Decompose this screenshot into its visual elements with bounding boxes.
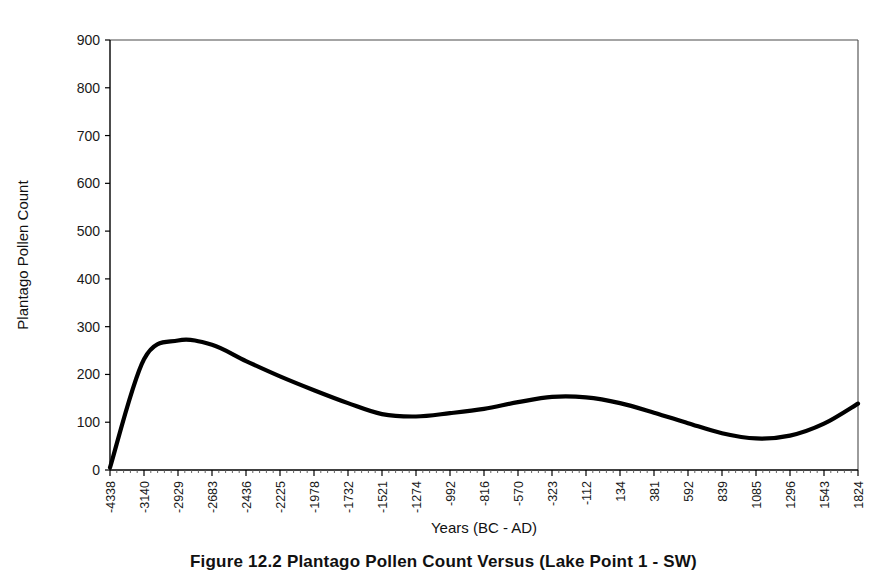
y-tick-label: 400: [77, 271, 101, 287]
data-series-line: [110, 340, 858, 468]
x-tick-label: -1521: [376, 481, 390, 513]
y-tick-label: 200: [77, 366, 101, 382]
y-tick-label: 800: [77, 80, 101, 96]
y-tick-label: 300: [77, 319, 101, 335]
x-tick-label: -2929: [172, 481, 186, 513]
x-tick-label: -2683: [206, 481, 220, 513]
y-tick-label: 0: [92, 462, 100, 478]
y-tick-label: 100: [77, 414, 101, 430]
x-tick-label: 134: [614, 481, 628, 502]
x-tick-label: 1296: [784, 481, 798, 509]
y-axis-title: Plantago Pollen Count: [14, 180, 31, 330]
x-tick-label: -3140: [138, 481, 152, 513]
x-tick-label: -1732: [342, 481, 356, 513]
x-tick-label: -2436: [240, 481, 254, 513]
plot-frame: [110, 40, 858, 470]
x-tick-label: 1085: [750, 481, 764, 509]
x-axis-title: Years (BC - AD): [431, 519, 537, 536]
x-tick-label: 381: [648, 481, 662, 502]
x-tick-label: -4338: [104, 481, 118, 513]
figure-caption: Figure 12.2 Plantago Pollen Count Versus…: [0, 552, 887, 571]
data-series-group: [110, 340, 858, 468]
x-tick-label: -1274: [410, 481, 424, 513]
x-tick-label: -570: [512, 481, 526, 506]
x-tick-label: 1824: [852, 481, 866, 509]
y-tick-label: 600: [77, 175, 101, 191]
x-tick-label: -1978: [308, 481, 322, 513]
x-tick-label: -2225: [274, 481, 288, 513]
y-tick-label: 900: [77, 32, 101, 48]
x-tick-label: -112: [580, 481, 594, 505]
y-tick-label: 700: [77, 128, 101, 144]
y-axis-ticks: 0100200300400500600700800900: [77, 32, 110, 478]
figure-container: Plantago Pollen Count Years (BC - AD) 01…: [0, 0, 887, 571]
x-tick-label: -816: [478, 481, 492, 506]
x-axis-title-text: Years (BC - AD): [431, 519, 537, 536]
x-tick-label: 839: [716, 481, 730, 502]
y-tick-label: 500: [77, 223, 101, 239]
y-axis-title-text: Plantago Pollen Count: [14, 180, 31, 330]
x-tick-label: -323: [546, 481, 560, 506]
x-axis-ticks: -4338-3140-2929-2683-2436-2225-1978-1732…: [104, 470, 866, 513]
x-tick-label: -992: [444, 481, 458, 506]
x-tick-label: 1543: [818, 481, 832, 509]
x-tick-label: 592: [682, 481, 696, 502]
pollen-count-line-chart: Plantago Pollen Count Years (BC - AD) 01…: [0, 0, 887, 571]
